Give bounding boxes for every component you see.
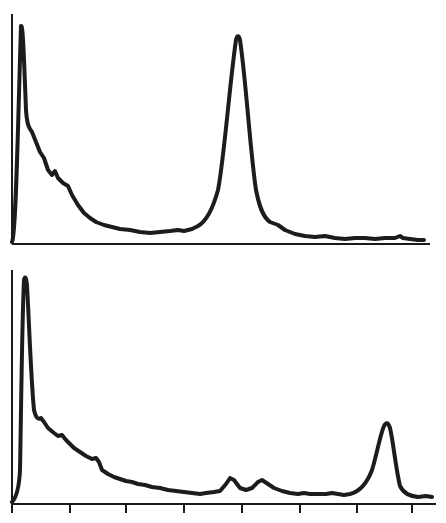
top-trace [12, 26, 424, 242]
spectra-figure [0, 0, 446, 523]
bottom-trace [12, 277, 432, 502]
bottom-chart [12, 270, 436, 513]
bottom-x-ticks [12, 504, 412, 513]
top-chart [12, 14, 430, 244]
